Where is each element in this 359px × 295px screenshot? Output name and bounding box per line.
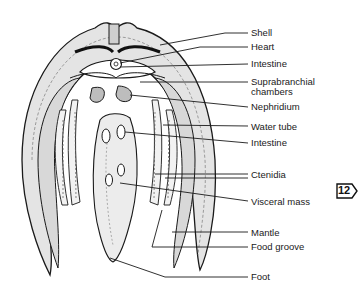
label-intestine-top: Intestine (251, 59, 287, 69)
label-food-groove: Food groove (251, 242, 304, 252)
heart-structure (111, 59, 122, 70)
label-shell: Shell (251, 28, 272, 38)
leader-line-foot (110, 258, 248, 277)
ctenidia-right-inner (150, 100, 162, 205)
nephridium-right (116, 86, 132, 102)
leader-line-water-tube (163, 125, 248, 126)
clam-cross-section-diagram (0, 0, 359, 295)
label-ctenidia: Ctenidia (251, 170, 286, 180)
label-intestine-bottom: Intestine (251, 138, 287, 148)
label-foot: Foot (251, 272, 270, 282)
ligament (109, 24, 119, 44)
page-badge-number: 12 (338, 184, 350, 196)
label-visceral-mass: Visceral mass (251, 197, 310, 207)
label-mantle: Mantle (251, 228, 280, 238)
label-suprabranchial-chambers: Suprabranchial chambers (251, 77, 315, 97)
nephridium-left (90, 87, 104, 102)
ctenidia-left-inner (68, 100, 80, 205)
ctenidia-left-outer (55, 110, 68, 205)
label-water-tube: Water tube (251, 122, 297, 132)
label-nephridium: Nephridium (251, 102, 300, 112)
label-heart: Heart (251, 42, 274, 52)
visceral-mass-foot (93, 114, 137, 262)
leader-line-shell (160, 33, 248, 45)
